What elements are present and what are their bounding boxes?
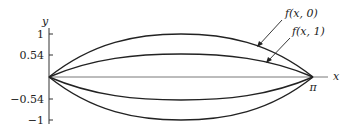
curve-neg-1	[49, 77, 313, 120]
chart: y 1 0.54 −0.54 −1 x π f(x, 0) f(x, 1)	[0, 0, 355, 131]
y-tick-label-1: 1	[37, 28, 44, 41]
x-axis-label: x	[333, 70, 340, 83]
arrow-f-x-1	[268, 38, 290, 61]
curve-neg-054	[49, 77, 313, 100]
x-tick-label-pi: π	[308, 81, 317, 94]
arrow-f-x-0	[259, 20, 282, 45]
annotation-f-x-0: f(x, 0)	[284, 7, 318, 20]
y-axis-label: y	[41, 15, 49, 28]
y-tick-label-m054: −0.54	[10, 93, 44, 106]
curve-f-x-1	[49, 54, 313, 77]
y-tick-label-054: 0.54	[20, 49, 45, 62]
y-tick-label-m1: −1	[28, 114, 44, 127]
annotation-f-x-1: f(x, 1)	[291, 25, 325, 38]
